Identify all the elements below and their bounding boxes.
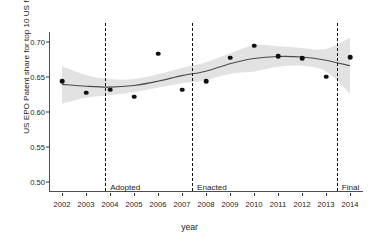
y-axis-line	[49, 32, 50, 192]
data-point	[84, 90, 89, 95]
x-tick-mark	[86, 193, 87, 196]
data-point	[228, 55, 233, 60]
data-point	[324, 74, 329, 79]
x-tick-mark	[62, 193, 63, 196]
y-tick-mark	[46, 77, 49, 78]
data-point	[156, 51, 161, 56]
data-point	[204, 79, 209, 84]
event-vline	[192, 23, 193, 192]
x-tick-mark	[182, 193, 183, 196]
data-point	[180, 88, 185, 93]
plot-area: 0.500.550.600.650.70 2002200320042005200…	[0, 0, 379, 241]
event-label: Enacted	[197, 183, 227, 192]
y-tick-mark	[46, 147, 49, 148]
x-tick-mark	[110, 193, 111, 196]
data-point	[132, 94, 137, 99]
data-point	[108, 87, 113, 92]
y-tick-label: 0.50	[21, 178, 45, 187]
data-point	[300, 56, 305, 61]
data-point	[60, 79, 65, 84]
x-tick-mark	[350, 193, 351, 196]
event-label: Adopted	[110, 183, 140, 192]
event-label: Final	[342, 183, 360, 192]
event-vline	[337, 23, 338, 192]
x-tick-mark	[254, 193, 255, 196]
x-tick-mark	[302, 193, 303, 196]
y-tick-mark	[46, 42, 49, 43]
y-axis-title: US EPO Patent share for top 10 US firms	[22, 0, 31, 150]
x-tick-mark	[230, 193, 231, 196]
x-tick-mark	[158, 193, 159, 196]
data-point	[252, 43, 257, 48]
x-tick-mark	[206, 193, 207, 196]
y-tick-mark	[46, 112, 49, 113]
data-point	[276, 54, 281, 59]
event-vline	[105, 23, 106, 192]
x-tick-mark	[134, 193, 135, 196]
data-point	[348, 55, 353, 60]
y-tick-mark	[46, 182, 49, 183]
x-tick-mark	[326, 193, 327, 196]
chart-root: 0.500.550.600.650.70 2002200320042005200…	[0, 0, 379, 241]
x-axis-title: year	[0, 222, 379, 232]
x-tick-label: 2014	[333, 200, 367, 209]
x-tick-mark	[278, 193, 279, 196]
